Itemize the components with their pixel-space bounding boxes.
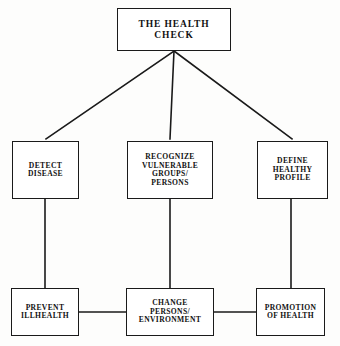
node-label-promotion-of-health: PROMOTION OF HEALTH xyxy=(265,304,317,321)
node-detect-disease: DETECT DISEASE xyxy=(12,141,79,199)
node-label-detect-disease: DETECT DISEASE xyxy=(28,162,63,179)
node-label-prevent-illhealth: PREVENT ILLHEALTH xyxy=(21,304,69,321)
node-the-health-check: THE HEALTH CHECK xyxy=(117,8,231,51)
edge-root-to-define xyxy=(174,51,292,139)
node-label-define-healthy-profile: DEFINE HEALTHY PROFILE xyxy=(273,157,313,183)
node-label-the-health-check: THE HEALTH CHECK xyxy=(118,19,230,40)
health-check-flow-diagram: THE HEALTH CHECK DETECT DISEASE RECOGNIZ… xyxy=(0,0,340,346)
edge-root-to-recognize xyxy=(170,51,174,139)
node-prevent-illhealth: PREVENT ILLHEALTH xyxy=(11,288,79,336)
node-promotion-of-health: PROMOTION OF HEALTH xyxy=(256,288,325,336)
edge-root-to-detect xyxy=(46,51,174,139)
node-define-healthy-profile: DEFINE HEALTHY PROFILE xyxy=(257,141,328,199)
node-label-change-persons-environment: CHANGE PERSONS/ ENVIRONMENT xyxy=(139,299,202,325)
node-recognize-vulnerable-groups: RECOGNIZE VULNERABLE GROUPS/ PERSONS xyxy=(127,141,213,199)
node-change-persons-environment: CHANGE PERSONS/ ENVIRONMENT xyxy=(126,288,214,336)
node-label-recognize-vulnerable-groups: RECOGNIZE VULNERABLE GROUPS/ PERSONS xyxy=(142,153,198,187)
